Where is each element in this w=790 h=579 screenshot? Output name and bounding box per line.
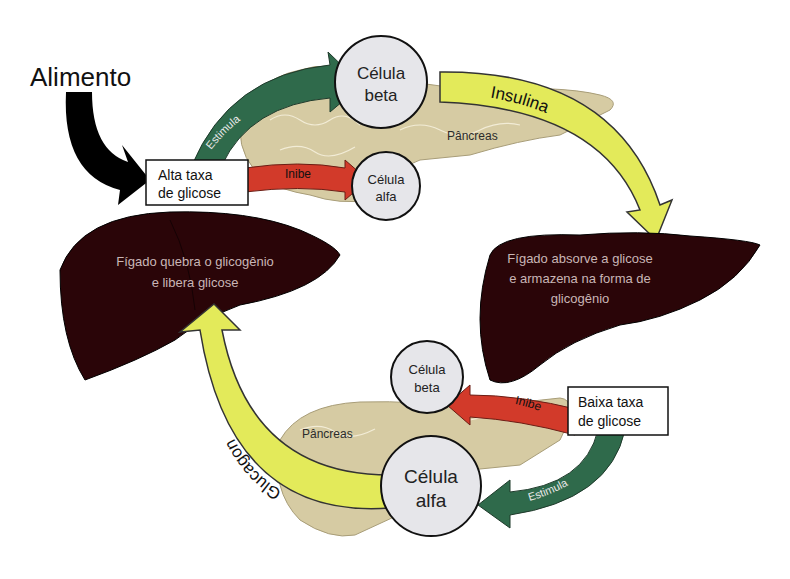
beta-cell-bottom: Célula beta [391, 341, 463, 413]
food-label: Alimento [30, 62, 131, 92]
alpha-cell-bottom: Célula alfa [381, 436, 481, 536]
svg-text:Fígado absorve a glicose: Fígado absorve a glicose [507, 251, 652, 266]
svg-text:e armazena na forma de: e armazena na forma de [509, 271, 651, 286]
svg-text:Fígado quebra o glicogênio: Fígado quebra o glicogênio [116, 254, 274, 269]
beta-cell-top: Célula beta [335, 36, 427, 128]
svg-text:glicogênio: glicogênio [551, 291, 610, 306]
svg-text:Célula: Célula [357, 64, 406, 83]
svg-text:Alta taxa: Alta taxa [158, 167, 213, 183]
svg-text:de glicose: de glicose [158, 185, 221, 201]
low-glucose-box: Baixa taxa de glicose [568, 387, 668, 435]
alpha-cell-top: Célula alfa [352, 152, 420, 220]
svg-text:Célula: Célula [409, 362, 447, 377]
svg-text:beta: beta [364, 86, 398, 105]
high-glucose-box: Alta taxa de glicose [146, 160, 248, 205]
svg-text:beta: beta [414, 380, 440, 395]
svg-text:de glicose: de glicose [578, 413, 641, 429]
insulin-arrow: Insulina [440, 72, 672, 240]
glucose-regulation-diagram: Pâncreas Insulina Estimula Inibe Aliment… [0, 0, 790, 579]
liver-right: Fígado absorve a glicose e armazena na f… [480, 233, 760, 383]
svg-text:Célula: Célula [368, 172, 406, 187]
svg-text:Célula: Célula [404, 466, 458, 487]
svg-text:alfa: alfa [376, 189, 398, 204]
pancreas-label-bottom: Pâncreas [302, 427, 353, 441]
svg-text:alfa: alfa [416, 490, 447, 511]
liver-left: Fígado quebra o glicogênio e libera glic… [60, 212, 340, 380]
inhibit-label-top: Inibe [285, 167, 311, 181]
svg-text:e libera glicose: e libera glicose [152, 275, 239, 290]
food-arrow [66, 92, 150, 205]
svg-text:Baixa taxa: Baixa taxa [578, 394, 644, 410]
pancreas-label-top: Pâncreas [447, 129, 498, 143]
